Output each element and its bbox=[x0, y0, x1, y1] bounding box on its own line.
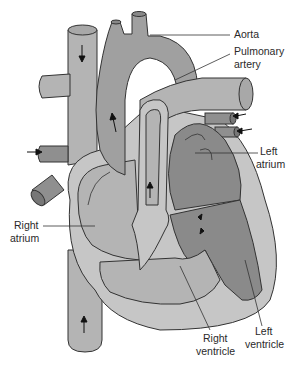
label-left-atrium-1: Left bbox=[260, 145, 278, 157]
label-left-ventricle-2: ventricle bbox=[245, 338, 284, 350]
pulmonary-vein-upper bbox=[205, 113, 233, 124]
left-vein-upper bbox=[39, 74, 70, 98]
label-right-atrium-2: atrium bbox=[10, 232, 39, 244]
label-right-ventricle-2: ventricle bbox=[196, 345, 235, 357]
label-aorta: Aorta bbox=[234, 28, 259, 40]
label-left-atrium-2: atrium bbox=[256, 158, 285, 170]
left-vein-lower bbox=[38, 146, 68, 162]
heart-diagram: Aorta Pulmonary artery Left atrium Right… bbox=[0, 0, 296, 368]
label-left-ventricle-1: Left bbox=[255, 325, 273, 337]
label-pulmonary-artery-1: Pulmonary bbox=[234, 45, 285, 57]
label-right-ventricle-1: Right bbox=[203, 332, 228, 344]
label-pulmonary-artery-2: artery bbox=[234, 58, 262, 70]
label-right-atrium-1: Right bbox=[14, 219, 39, 231]
